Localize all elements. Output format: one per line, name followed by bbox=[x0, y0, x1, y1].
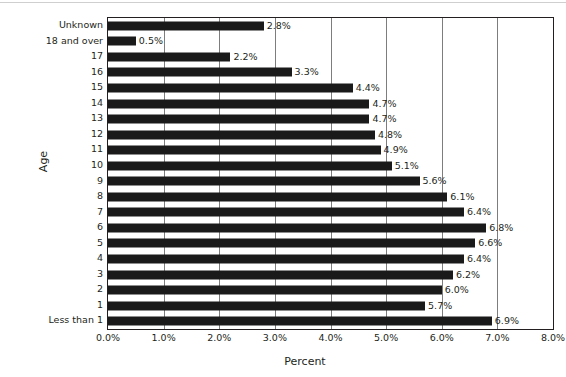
bar[interactable] bbox=[108, 270, 453, 279]
bar-row: 6.6% bbox=[108, 236, 553, 252]
bar[interactable] bbox=[108, 223, 486, 232]
y-axis-label: 5 bbox=[97, 235, 103, 251]
x-axis-label: 6.0% bbox=[430, 333, 454, 343]
bar-row: 4.7% bbox=[108, 96, 553, 112]
bar[interactable] bbox=[108, 130, 375, 139]
bar-row: 6.8% bbox=[108, 220, 553, 236]
y-axis-tick-labels: Unknown18 and over1716151413121110987654… bbox=[0, 17, 103, 330]
x-axis-title-text: Percent bbox=[284, 355, 325, 368]
bar-value-label: 6.9% bbox=[495, 316, 519, 326]
bar-value-label: 2.8% bbox=[267, 21, 291, 31]
y-axis-label: 7 bbox=[97, 204, 103, 220]
bar-value-label: 6.0% bbox=[445, 285, 469, 295]
bar[interactable] bbox=[108, 255, 464, 264]
bar-value-label: 6.8% bbox=[489, 223, 513, 233]
bar[interactable] bbox=[108, 286, 442, 295]
bar-value-label: 4.8% bbox=[378, 130, 402, 140]
bar[interactable] bbox=[108, 208, 464, 217]
bar-row: 4.4% bbox=[108, 80, 553, 96]
bar[interactable] bbox=[108, 21, 264, 30]
bar[interactable] bbox=[108, 177, 420, 186]
bar[interactable] bbox=[108, 239, 475, 248]
x-axis-tick-labels: 0.0%1.0%2.0%3.0%4.0%5.0%6.0%7.0%8.0% bbox=[0, 333, 566, 349]
y-axis-label: 4 bbox=[97, 250, 103, 266]
bar-row: 5.1% bbox=[108, 158, 553, 174]
bar-row: 5.6% bbox=[108, 174, 553, 190]
bar[interactable] bbox=[108, 161, 392, 170]
bar-value-label: 0.5% bbox=[139, 37, 163, 47]
bar-row: 6.2% bbox=[108, 267, 553, 283]
y-axis-label: 9 bbox=[97, 173, 103, 189]
x-axis-label: 4.0% bbox=[318, 333, 342, 343]
y-axis-label: 16 bbox=[91, 64, 103, 80]
bar-value-label: 6.1% bbox=[450, 192, 474, 202]
bar-row: 3.3% bbox=[108, 65, 553, 81]
bar[interactable] bbox=[108, 317, 492, 326]
x-axis-label: 5.0% bbox=[374, 333, 398, 343]
bar-row: 6.9% bbox=[108, 313, 553, 329]
bar[interactable] bbox=[108, 192, 447, 201]
y-axis-label: 1 bbox=[97, 297, 103, 313]
y-axis-label: 13 bbox=[91, 110, 103, 126]
bar-value-label: 4.7% bbox=[372, 99, 396, 109]
y-axis-label: 14 bbox=[91, 95, 103, 111]
y-axis-label: 3 bbox=[97, 266, 103, 282]
x-axis-label: 8.0% bbox=[541, 333, 565, 343]
x-axis-label: 2.0% bbox=[207, 333, 231, 343]
x-axis-label: 1.0% bbox=[152, 333, 176, 343]
y-axis-label: 6 bbox=[97, 219, 103, 235]
bar[interactable] bbox=[108, 115, 369, 124]
y-axis-label: 12 bbox=[91, 126, 103, 142]
bar-row: 4.9% bbox=[108, 142, 553, 158]
bar-value-label: 4.7% bbox=[372, 114, 396, 124]
bar-value-label: 6.6% bbox=[478, 239, 502, 249]
y-axis-label: 10 bbox=[91, 157, 103, 173]
bar-row: 5.7% bbox=[108, 298, 553, 314]
y-axis-label: Less than 1 bbox=[48, 312, 103, 328]
bar-row: 6.4% bbox=[108, 205, 553, 221]
y-axis-label: 2 bbox=[97, 281, 103, 297]
bar-row: 4.8% bbox=[108, 127, 553, 143]
bar-value-label: 5.1% bbox=[395, 161, 419, 171]
bar-row: 6.0% bbox=[108, 282, 553, 298]
y-axis-label: 15 bbox=[91, 79, 103, 95]
bar[interactable] bbox=[108, 37, 136, 46]
bar-value-label: 6.2% bbox=[456, 270, 480, 280]
bar-value-label: 2.2% bbox=[233, 52, 257, 62]
bar[interactable] bbox=[108, 83, 353, 92]
bar[interactable] bbox=[108, 99, 369, 108]
y-axis-label: 18 and over bbox=[46, 33, 103, 49]
bar-value-label: 5.7% bbox=[428, 301, 452, 311]
bar-value-label: 5.6% bbox=[423, 177, 447, 187]
x-axis-title: Percent bbox=[0, 355, 566, 368]
x-axis-label: 0.0% bbox=[96, 333, 120, 343]
bar[interactable] bbox=[108, 52, 230, 61]
y-axis-label: 8 bbox=[97, 188, 103, 204]
bar-chart: Age Unknown18 and over171615141312111098… bbox=[0, 0, 566, 377]
bar-row: 2.8% bbox=[108, 18, 553, 34]
bar[interactable] bbox=[108, 68, 292, 77]
bar-row: 2.2% bbox=[108, 49, 553, 65]
bar-value-label: 4.9% bbox=[384, 145, 408, 155]
bar-value-label: 6.4% bbox=[467, 208, 491, 218]
bar-row: 4.7% bbox=[108, 111, 553, 127]
bar-value-label: 3.3% bbox=[295, 68, 319, 78]
x-axis-label: 7.0% bbox=[485, 333, 509, 343]
y-axis-label: 11 bbox=[91, 141, 103, 157]
bar-value-label: 4.4% bbox=[356, 83, 380, 93]
bar-rows: 2.8%0.5%2.2%3.3%4.4%4.7%4.7%4.8%4.9%5.1%… bbox=[108, 18, 553, 329]
x-axis-label: 3.0% bbox=[263, 333, 287, 343]
y-axis-label: 17 bbox=[91, 48, 103, 64]
y-axis-label: Unknown bbox=[59, 17, 103, 33]
bar-row: 0.5% bbox=[108, 34, 553, 50]
bar-row: 6.4% bbox=[108, 251, 553, 267]
bar[interactable] bbox=[108, 301, 425, 310]
bar-value-label: 6.4% bbox=[467, 254, 491, 264]
bar[interactable] bbox=[108, 146, 381, 155]
bar-row: 6.1% bbox=[108, 189, 553, 205]
plot-area: 2.8%0.5%2.2%3.3%4.4%4.7%4.7%4.8%4.9%5.1%… bbox=[107, 17, 554, 330]
